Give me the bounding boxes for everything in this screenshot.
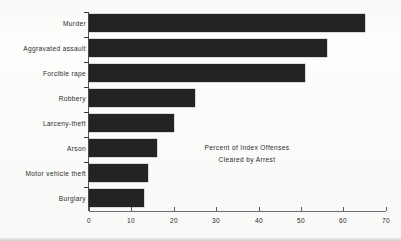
x-tick-label-60: 60 [339, 218, 347, 225]
category-label-murder: Murder [63, 21, 86, 28]
x-tick-label-30: 30 [212, 218, 220, 225]
x-tick-label-20: 20 [170, 218, 178, 225]
x-tick-label-50: 50 [297, 218, 305, 225]
y-axis-tick [84, 62, 89, 63]
bar-aggravated-assault [89, 39, 327, 57]
x-axis-tick [301, 207, 302, 211]
annotation-line-1: Percent of Index Offenses [182, 142, 312, 154]
category-label-burglary: Burglary [59, 196, 86, 203]
y-axis-tick [84, 162, 89, 163]
category-label-arson: Arson [67, 146, 86, 153]
bar-murder [89, 14, 365, 32]
y-axis-tick [84, 37, 89, 38]
x-axis-tick [216, 207, 217, 211]
page-edge-artifact [0, 237, 401, 241]
x-axis-tick [174, 207, 175, 211]
category-label-aggravated-assault: Aggravated assault [23, 46, 86, 53]
category-label-larceny-theft: Larceny-theft [43, 121, 86, 128]
bar-arson [89, 139, 157, 157]
category-label-robbery: Robbery [59, 96, 86, 103]
x-tick-label-70: 70 [382, 218, 390, 225]
bar-burglary [89, 189, 144, 207]
category-label-motor-vehicle-theft: Motor vehicle theft [25, 171, 86, 178]
x-axis-tick [343, 207, 344, 211]
x-tick-label-0: 0 [87, 218, 91, 225]
bar-robbery [89, 89, 195, 107]
x-tick-label-40: 40 [255, 218, 263, 225]
x-axis-tick [386, 207, 387, 211]
x-axis-tick [131, 207, 132, 211]
y-axis-tick [84, 137, 89, 138]
x-axis-line [89, 211, 386, 212]
category-label-forcible-rape: Forcible rape [43, 71, 86, 78]
plot-area: Murder Aggravated assault Forcible rape … [0, 0, 401, 241]
annotation-line-2: Cleared by Arrest [182, 154, 312, 166]
y-axis-tick [84, 112, 89, 113]
y-axis-tick [84, 12, 89, 13]
bar-forcible-rape [89, 64, 305, 82]
x-axis-tick [259, 207, 260, 211]
y-axis-tick [84, 87, 89, 88]
bar-larceny-theft [89, 114, 174, 132]
y-axis-tick [84, 187, 89, 188]
bar-motor-vehicle-theft [89, 164, 148, 182]
chart-annotation: Percent of Index Offenses Cleared by Arr… [182, 142, 312, 165]
x-tick-label-10: 10 [127, 218, 135, 225]
bar-chart-figure: Murder Aggravated assault Forcible rape … [0, 0, 401, 241]
x-axis-tick [89, 207, 90, 211]
